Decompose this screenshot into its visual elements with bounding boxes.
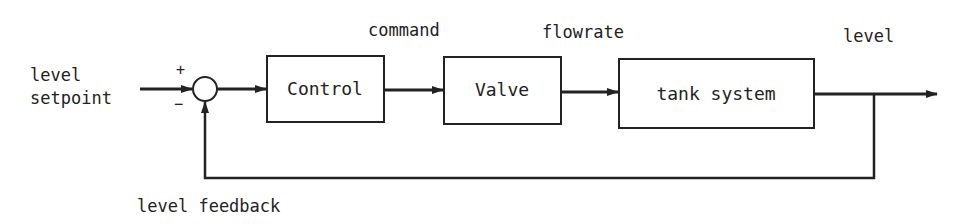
flowrate-label: flowrate — [542, 22, 624, 42]
input-label-line1: level — [30, 65, 81, 85]
command-label: command — [368, 20, 440, 40]
feedback-label: level feedback — [137, 196, 280, 216]
output-level-label: level — [843, 26, 894, 46]
block-diagram: level setpoint + − Control command Valve… — [0, 0, 962, 224]
minus-sign: − — [174, 95, 183, 113]
summing-junction — [193, 77, 217, 101]
control-block-label: Control — [287, 78, 363, 99]
tank-system-block-label: tank system — [656, 83, 775, 104]
plus-sign: + — [176, 61, 185, 79]
input-label-line2: setpoint — [30, 88, 112, 108]
valve-block-label: Valve — [475, 79, 529, 100]
